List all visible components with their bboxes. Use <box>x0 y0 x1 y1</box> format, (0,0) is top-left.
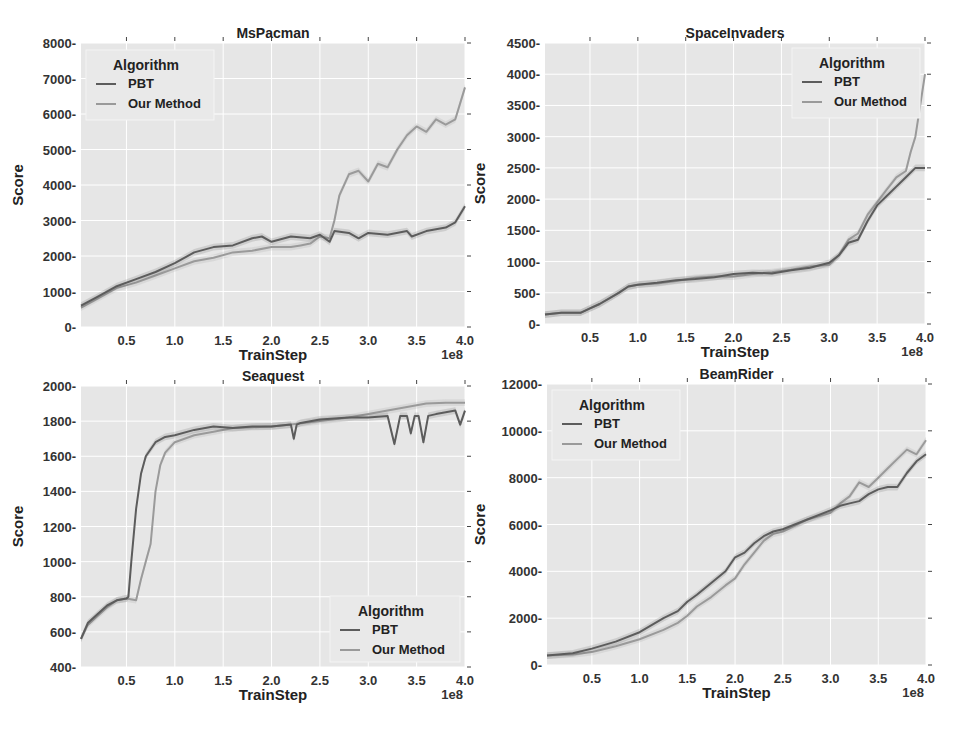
legend-entry: Our Method <box>594 436 667 451</box>
y-tick-label: 7000- <box>43 72 76 87</box>
x-tick-label: 2.5 <box>772 330 790 345</box>
x-tick-label: 1.0 <box>166 333 184 348</box>
y-tick-label: 400- <box>50 660 76 675</box>
y-tick-label: 0- <box>64 320 76 335</box>
y-tick-label: 4000- <box>509 564 542 579</box>
x-axis-label: TrainStep <box>239 346 307 363</box>
x-tick-label: 4.0 <box>916 330 934 345</box>
chart-title: SpaceInvaders <box>686 25 785 41</box>
figure: 0-1000-2000-3000-4000-5000-6000-7000-800… <box>0 0 965 738</box>
x-offset-label: 1e8 <box>901 344 923 359</box>
chart-title: Seaquest <box>242 368 305 384</box>
y-tick-label: 2000- <box>43 379 76 394</box>
x-offset-label: 1e8 <box>441 347 463 362</box>
y-tick-label: 6000- <box>43 107 76 122</box>
y-tick-label: 0- <box>528 317 540 332</box>
legend-entry: Our Method <box>372 642 445 657</box>
y-tick-label: 4500- <box>507 36 540 51</box>
y-tick-label: 6000- <box>509 518 542 533</box>
chart-title: MsPacman <box>236 25 309 41</box>
y-axis-label: Score <box>471 163 488 205</box>
x-tick-label: 1.5 <box>214 333 232 348</box>
y-tick-label: 10000- <box>502 424 542 439</box>
chart-panel-beamrider: 0-2000-4000-6000-8000-10000-12000-0.51.0… <box>471 366 935 701</box>
x-tick-label: 4.0 <box>456 673 474 688</box>
y-tick-label: 1500- <box>507 223 540 238</box>
y-tick-label: 4000- <box>43 178 76 193</box>
x-tick-label: 0.5 <box>117 333 135 348</box>
x-tick-label: 1.5 <box>677 330 695 345</box>
legend: AlgorithmPBTOur Method <box>330 596 460 662</box>
x-tick-label: 1.0 <box>166 673 184 688</box>
x-tick-label: 1.0 <box>629 330 647 345</box>
legend-entry: Our Method <box>834 94 907 109</box>
x-tick-label: 2.5 <box>311 673 329 688</box>
x-tick-label: 3.5 <box>869 671 887 686</box>
x-tick-label: 3.0 <box>820 330 838 345</box>
y-tick-label: 1800- <box>43 414 76 429</box>
x-tick-label: 0.5 <box>581 330 599 345</box>
y-tick-label: 2000- <box>509 611 542 626</box>
x-axis-label: TrainStep <box>702 684 770 701</box>
y-tick-label: 2000- <box>507 192 540 207</box>
x-tick-label: 0.5 <box>583 671 601 686</box>
y-tick-label: 600- <box>50 625 76 640</box>
y-tick-label: 0- <box>530 658 542 673</box>
x-tick-label: 3.5 <box>868 330 886 345</box>
y-tick-label: 4000- <box>507 67 540 82</box>
legend-title: Algorithm <box>113 57 179 73</box>
x-tick-label: 2.5 <box>311 333 329 348</box>
x-offset-label: 1e8 <box>902 685 924 700</box>
y-tick-label: 8000- <box>43 36 76 51</box>
y-tick-label: 3000- <box>43 214 76 229</box>
x-tick-label: 3.0 <box>359 673 377 688</box>
x-tick-label: 3.5 <box>408 333 426 348</box>
legend-entry: PBT <box>128 76 154 91</box>
chart-title: BeamRider <box>700 366 774 382</box>
x-tick-label: 1.0 <box>631 671 649 686</box>
y-tick-label: 5000- <box>43 143 76 158</box>
chart-panel-seaquest: 400-600-800-1000-1200-1400-1600-1800-200… <box>9 368 474 703</box>
legend: AlgorithmPBTOur Method <box>792 48 920 118</box>
y-tick-label: 3000- <box>507 130 540 145</box>
y-tick-label: 2000- <box>43 249 76 264</box>
chart-panel-spaceinvaders: 0-500-1000-1500-2000-2500-3000-3500-4000… <box>471 25 934 360</box>
x-tick-label: 1.5 <box>214 673 232 688</box>
y-tick-label: 1000- <box>43 555 76 570</box>
y-tick-label: 2500- <box>507 161 540 176</box>
x-tick-label: 1.5 <box>678 671 696 686</box>
y-tick-label: 8000- <box>509 471 542 486</box>
x-tick-label: 0.5 <box>117 673 135 688</box>
legend-title: Algorithm <box>579 397 645 413</box>
legend-entry: PBT <box>372 622 398 637</box>
y-axis-label: Score <box>471 504 488 546</box>
y-tick-label: 800- <box>50 590 76 605</box>
legend-entry: Our Method <box>128 96 201 111</box>
y-tick-label: 12000- <box>502 377 542 392</box>
x-tick-label: 3.5 <box>408 673 426 688</box>
x-axis-label: TrainStep <box>239 686 307 703</box>
x-offset-label: 1e8 <box>441 687 463 702</box>
y-tick-label: 1600- <box>43 449 76 464</box>
legend-title: Algorithm <box>819 55 885 71</box>
legend-entry: PBT <box>834 74 860 89</box>
legend-entry: PBT <box>594 416 620 431</box>
y-tick-label: 1200- <box>43 520 76 535</box>
legend: AlgorithmPBTOur Method <box>86 50 214 120</box>
chart-panel-mspacman: 0-1000-2000-3000-4000-5000-6000-7000-800… <box>9 25 474 363</box>
y-axis-label: Score <box>9 164 26 206</box>
y-tick-label: 1400- <box>43 484 76 499</box>
x-tick-label: 4.0 <box>456 333 474 348</box>
x-axis-label: TrainStep <box>701 343 769 360</box>
x-tick-label: 2.5 <box>774 671 792 686</box>
y-tick-label: 1000- <box>507 255 540 270</box>
y-axis-label: Score <box>9 506 26 548</box>
y-tick-label: 500- <box>514 286 540 301</box>
x-tick-label: 4.0 <box>917 671 935 686</box>
x-tick-label: 3.0 <box>359 333 377 348</box>
x-tick-label: 3.0 <box>821 671 839 686</box>
y-tick-label: 1000- <box>43 285 76 300</box>
legend-title: Algorithm <box>358 603 424 619</box>
legend: AlgorithmPBTOur Method <box>552 390 680 460</box>
y-tick-label: 3500- <box>507 98 540 113</box>
